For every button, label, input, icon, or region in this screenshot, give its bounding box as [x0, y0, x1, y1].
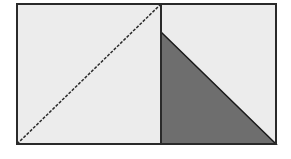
geometry-diagram — [0, 0, 291, 159]
